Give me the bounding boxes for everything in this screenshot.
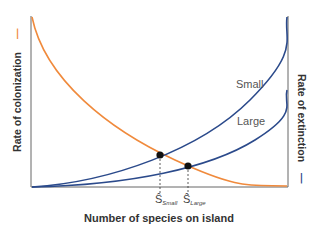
colonization-legend-dash: —: [11, 28, 23, 39]
equilibrium-point-large: [184, 162, 191, 169]
svg-text:Rate of colonization: Rate of colonization: [11, 52, 23, 152]
y-axis-label-right: Rate of extinction —: [296, 74, 308, 184]
label-large: Large: [237, 115, 265, 127]
y-axis-label-left: Rate of colonization —: [11, 28, 23, 152]
s-hat-large: ŜLarge: [183, 193, 206, 206]
extinction-curve-large: [32, 90, 287, 187]
island-biogeography-chart: Small Large ŜSmall ŜLarge Number of spec…: [0, 0, 315, 238]
equilibrium-point-small: [156, 151, 163, 158]
extinction-curve-small: [32, 17, 287, 187]
s-hat-small: ŜSmall: [155, 193, 178, 206]
svg-text:Rate of extinction: Rate of extinction: [296, 74, 308, 162]
label-small: Small: [236, 78, 264, 90]
extinction-legend-dash: —: [296, 173, 308, 184]
x-axis-label: Number of species on island: [84, 212, 234, 224]
